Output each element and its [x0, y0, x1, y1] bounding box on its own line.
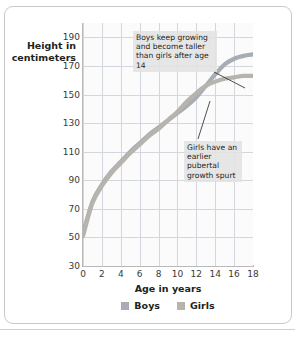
y-axis-tick-label: 110: [54, 147, 80, 157]
x-axis-tick-label: 12: [187, 269, 205, 279]
y-axis-tick-label: 90: [54, 175, 80, 185]
legend: Boys Girls: [83, 300, 253, 311]
annotation-girls: Girls have an earlier pubertal growth sp…: [184, 141, 242, 182]
x-axis-tick-label: 6: [131, 269, 149, 279]
annotation-boys: Boys keep growing and become taller than…: [133, 31, 217, 72]
x-axis-tick-label: 10: [168, 269, 186, 279]
legend-swatch-boys-icon: [121, 302, 129, 310]
legend-swatch-girls-icon: [177, 302, 185, 310]
legend-label-boys: Boys: [134, 300, 160, 311]
legend-item-boys: Boys: [121, 300, 160, 311]
legend-label-girls: Girls: [190, 300, 215, 311]
y-axis-tick-label: 70: [54, 204, 80, 214]
x-axis-tick-label: 0: [74, 269, 92, 279]
x-axis-tick-label: 16: [225, 269, 243, 279]
x-axis-tick-label: 14: [206, 269, 224, 279]
x-axis-tick-label: 4: [112, 269, 130, 279]
bottom-divider: [0, 329, 295, 330]
x-axis-tick-label: 18: [244, 269, 262, 279]
legend-item-girls: Girls: [177, 300, 215, 311]
x-axis-tick-label: 2: [93, 269, 111, 279]
y-axis-tick-label: 150: [54, 90, 80, 100]
x-axis-tick-label: 8: [150, 269, 168, 279]
y-axis-tick-labels: 30507090110130150170190: [50, 0, 80, 340]
y-axis-tick-label: 170: [54, 61, 80, 71]
y-axis-tick-label: 50: [54, 232, 80, 242]
y-axis-tick-label: 190: [54, 32, 80, 42]
y-axis-tick-label: 130: [54, 118, 80, 128]
x-axis-title: Age in years: [83, 283, 253, 294]
